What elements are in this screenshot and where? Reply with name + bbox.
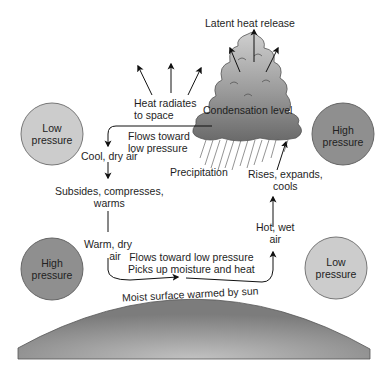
heat-radiates-arrows [138,64,201,95]
heat-radiates-line1: Heat radiates [134,97,196,109]
hot-wet-line2: air [256,233,295,245]
precipitation-label: Precipitation [170,166,228,178]
latent-heat-label: Latent heat release [205,17,295,29]
rises-expands-cools-label: Rises, expands, cools [248,168,323,192]
moist-surface-ground [18,299,370,359]
hot-wet-line1: Hot, wet [256,221,295,233]
surface-flow-line1: Flows toward low pressure [128,251,255,263]
pressure-label-bottom-right: Low pressure [305,256,367,280]
condensation-level-label: Condensation level [203,104,292,116]
surface-flow-label: Flows toward low pressure Picks up moist… [128,251,255,275]
pressure-line2: pressure [21,269,83,281]
pressure-line1: High [21,257,83,269]
surface-flow-line2: Picks up moisture and heat [128,263,255,275]
pressure-line2: pressure [305,268,367,280]
warm-dry-air-label: Warm, dry air [84,238,132,262]
pressure-line2: pressure [21,134,83,146]
hot-wet-air-label: Hot, wet air [256,221,295,245]
rises-line2: cools [248,180,323,192]
subsides-line2: warms [55,197,164,209]
subsides-line1: Subsides, compresses, [55,185,164,197]
heat-radiates-line2: to space [134,109,196,121]
pressure-line1: High [312,124,374,136]
pressure-label-top-right: High pressure [312,124,374,148]
pressure-label-bottom-left: High pressure [21,257,83,281]
warm-dry-line1: Warm, dry [84,238,132,250]
warm-dry-line2: air [84,250,132,262]
pressure-line2: pressure [312,136,374,148]
convection-diagram: Low pressure High pressure High pressure… [0,0,390,375]
pressure-line1: Low [21,122,83,134]
pressure-label-top-left: Low pressure [21,122,83,146]
rises-line1: Rises, expands, [248,168,323,180]
flows-toward-line1: Flows toward [128,130,190,142]
heat-radiates-label: Heat radiates to space [134,97,196,121]
cumulonimbus-cloud [193,32,302,141]
pressure-line1: Low [305,256,367,268]
cool-dry-air-label: Cool, dry air [81,150,138,162]
subsides-compresses-label: Subsides, compresses, warms [55,185,164,209]
